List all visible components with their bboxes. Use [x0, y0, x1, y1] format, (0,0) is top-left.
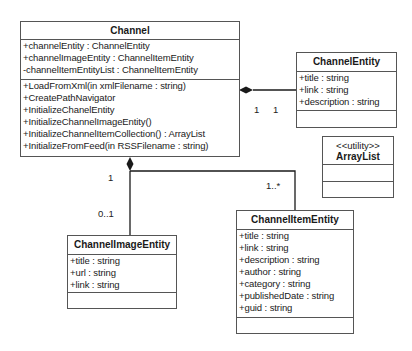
class-name: Channel — [21, 22, 239, 40]
methods-section — [68, 293, 176, 295]
attributes-section: +title : string +url : string +link : st… — [68, 255, 176, 293]
attribute: +link : string — [70, 279, 176, 291]
attributes-section: +channelEntity : ChannelEntity +channelI… — [21, 40, 239, 80]
method: +InitializeChannelItemCollection() : Arr… — [23, 128, 239, 140]
class-name: ChannelItemEntity — [237, 211, 353, 230]
attribute: +title : string — [239, 230, 353, 242]
class-arraylist[interactable]: <<utility>> ArrayList — [322, 136, 394, 198]
composition-channel-channelimageentity — [127, 157, 134, 235]
class-channel[interactable]: Channel +channelEntity : ChannelEntity +… — [20, 21, 240, 157]
attribute: +description : string — [239, 254, 353, 266]
attribute: +title : string — [299, 72, 396, 84]
multiplicity-channel-image-source: 1 — [108, 172, 113, 183]
attribute: +url : string — [70, 267, 176, 279]
methods-section: +LoadFromXml(in xmlFilename : string) +C… — [21, 80, 239, 153]
methods-section — [297, 111, 396, 113]
attribute: +channelImageEntity : ChannelItemEntity — [23, 52, 239, 64]
multiplicity-channel-side: 1 — [254, 104, 259, 115]
stereotype: <<utility>> — [323, 140, 393, 151]
attributes-section: +title : string +link : string +descript… — [297, 72, 396, 111]
attributes-section — [323, 165, 393, 182]
class-name: ChannelEntity — [297, 53, 396, 72]
multiplicity-channel-item-target: 1..* — [266, 180, 280, 191]
class-channel-item-entity[interactable]: ChannelItemEntity +title : string +link … — [236, 210, 354, 334]
attribute: +category : string — [239, 278, 353, 290]
class-channel-entity[interactable]: ChannelEntity +title : string +link : st… — [296, 52, 397, 128]
attribute: -channelItemEntityList : ChannelItemEnti… — [23, 64, 239, 76]
class-name: ArrayList — [323, 151, 393, 162]
methods-section — [237, 318, 353, 320]
multiplicity-channelentity-side: 1 — [273, 104, 278, 115]
method: +InitializeChanelEntity — [23, 104, 239, 116]
methods-section — [323, 182, 393, 184]
attribute: +publishedDate : string — [239, 290, 353, 302]
composition-diamond-icon — [239, 87, 253, 94]
method: +CreatePathNavigator — [23, 92, 239, 104]
class-channel-image-entity[interactable]: ChannelImageEntity +title : string +url … — [67, 235, 177, 309]
multiplicity-channel-image-target: 0..1 — [98, 208, 114, 219]
attribute: +author : string — [239, 266, 353, 278]
attribute: +channelEntity : ChannelEntity — [23, 40, 239, 52]
composition-channel-channelentity — [239, 87, 296, 94]
composition-diamond-icon — [127, 157, 134, 171]
attribute: +guid : string — [239, 302, 353, 314]
attribute: +link : string — [239, 242, 353, 254]
attribute: +description : string — [299, 96, 396, 108]
class-header: <<utility>> ArrayList — [323, 137, 393, 165]
attributes-section: +title : string +link : string +descript… — [237, 230, 353, 318]
attribute: +title : string — [70, 255, 176, 267]
method: +LoadFromXml(in xmlFilename : string) — [23, 80, 239, 92]
method: +InitializeFromFeed(in RSSFilename : str… — [23, 140, 239, 152]
method: +InitializeChannelImageEntity() — [23, 116, 239, 128]
class-name: ChannelImageEntity — [68, 236, 176, 255]
attribute: +link : string — [299, 84, 396, 96]
